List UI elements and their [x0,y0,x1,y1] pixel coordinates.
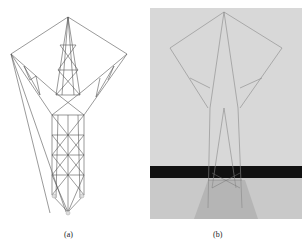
panel-a-caption: (a) [64,230,73,239]
panel-b-caption: (b) [213,230,222,239]
tower-drawing-panel [0,0,150,220]
tower-model-photo [150,8,302,219]
tower-photo-panel [150,8,302,219]
tower-wireframe-drawing [0,0,150,220]
